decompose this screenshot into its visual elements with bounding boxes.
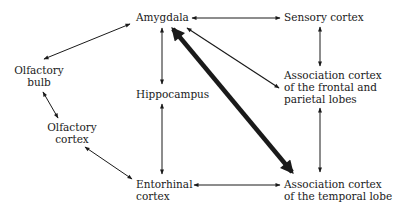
node-olfactory-bulb: Olfactory bulb bbox=[11, 64, 67, 88]
node-label: Amygdala bbox=[136, 11, 189, 23]
node-label: Hippocampus bbox=[136, 88, 209, 100]
node-hippocampus: Hippocampus bbox=[136, 88, 209, 100]
node-label: of the temporal lobe bbox=[284, 190, 392, 202]
node-label: Sensory cortex bbox=[284, 11, 364, 23]
node-assoc-temporal: Association cortex of the temporal lobe bbox=[284, 178, 392, 202]
edge-amygdala-assoc-temporal-thick bbox=[173, 29, 292, 172]
node-label: of the frontal and bbox=[284, 81, 382, 93]
edge-amygdala-olfactory-bulb bbox=[44, 24, 130, 59]
node-label: cortex bbox=[44, 133, 100, 145]
edge-olfactory-bulb-olfactory-cortex bbox=[43, 92, 58, 118]
node-olfactory-cortex: Olfactory cortex bbox=[44, 121, 100, 145]
node-sensory-cortex: Sensory cortex bbox=[284, 11, 364, 23]
memory-pathway-diagram: Amygdala Sensory cortex Olfactory bulb H… bbox=[0, 0, 396, 209]
node-amygdala: Amygdala bbox=[136, 11, 189, 23]
edge-olfactory-cortex-entorhinal bbox=[85, 147, 132, 179]
node-label: Association cortex bbox=[284, 178, 392, 190]
node-label: Entorhinal bbox=[136, 178, 193, 190]
node-label: bulb bbox=[11, 76, 67, 88]
node-assoc-frontal-parietal: Association cortex of the frontal and pa… bbox=[284, 69, 382, 105]
node-label: cortex bbox=[136, 190, 193, 202]
node-label: Association cortex bbox=[284, 69, 382, 81]
node-label: parietal lobes bbox=[284, 93, 382, 105]
node-label: Olfactory bbox=[44, 121, 100, 133]
edge-amygdala-assoc-frontal bbox=[187, 28, 279, 88]
node-entorhinal-cortex: Entorhinal cortex bbox=[136, 178, 193, 202]
node-label: Olfactory bbox=[11, 64, 67, 76]
